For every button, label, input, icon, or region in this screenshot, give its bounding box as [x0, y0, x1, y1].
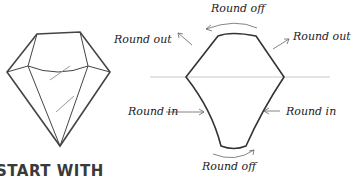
label-round-in-left: Round in: [128, 105, 178, 118]
label-round-out-left: Round out: [114, 33, 172, 46]
label-round-in-right: Round in: [286, 105, 336, 118]
label-round-off-bottom: Round off: [202, 160, 256, 173]
diagram-canvas: [0, 0, 364, 177]
label-round-off-top: Round off: [211, 2, 265, 15]
gem-icon: [7, 32, 110, 146]
shape-outline: [186, 34, 284, 149]
arrows: [166, 23, 289, 157]
section-heading: START WITH: [0, 162, 104, 177]
label-round-out-right: Round out: [293, 30, 351, 43]
